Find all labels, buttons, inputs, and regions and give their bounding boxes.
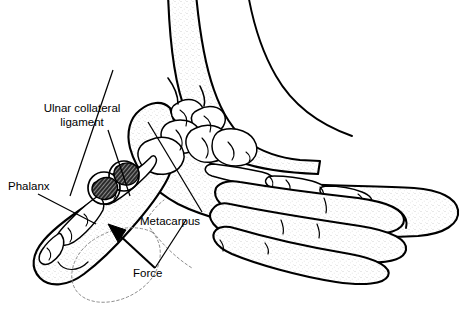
figure-canvas: Ulnar collateral ligament Phalanx Metaca… bbox=[0, 0, 471, 309]
ligament-bundle-proximal bbox=[92, 178, 118, 200]
label-ulnar-collateral-ligament-line1: Ulnar collateral bbox=[44, 102, 121, 114]
ligament-bundle-distal bbox=[114, 163, 139, 185]
label-metacarpus: Metacarpus bbox=[140, 215, 200, 227]
label-force: Force bbox=[133, 267, 162, 279]
label-phalanx: Phalanx bbox=[8, 180, 50, 192]
anatomical-figure: Ulnar collateral ligament Phalanx Metaca… bbox=[0, 0, 471, 309]
label-ulnar-collateral-ligament-line2: ligament bbox=[60, 116, 104, 128]
